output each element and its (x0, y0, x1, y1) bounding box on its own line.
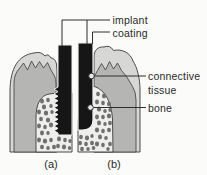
bone-dot (90, 134, 93, 138)
bone-dot (50, 110, 53, 114)
bone-dot (63, 138, 67, 142)
bone-dot (107, 102, 111, 107)
connective-tissue-label-line2: tissue (148, 84, 177, 96)
bone-dot (104, 136, 108, 140)
bone-dot (101, 101, 105, 105)
bone-dot (46, 98, 50, 102)
coating-label: coating (113, 27, 148, 39)
bone-dot (40, 99, 44, 104)
connective-tissue-marker-circle (89, 73, 95, 79)
bone-dot (108, 108, 111, 112)
bone-dot (79, 135, 83, 140)
connective-tissue-label-line1: connective (148, 70, 200, 82)
bone-dot (49, 104, 52, 108)
bone-dot (101, 143, 105, 147)
figure-container: implant coating connective tissue bone (… (0, 0, 207, 175)
bone-dot (95, 100, 99, 105)
panel-b-caption: (b) (107, 158, 120, 170)
bone-dot (92, 146, 96, 150)
bone-dot (40, 131, 44, 136)
bone-dot (62, 145, 66, 150)
bone-dot (95, 115, 99, 120)
bone-dot (80, 147, 84, 151)
bone-dot (96, 92, 100, 97)
bone-dot (37, 138, 41, 143)
implant-coating-figure: implant coating connective tissue bone (… (0, 0, 207, 175)
bone-dot (42, 105, 46, 110)
bone-dot (106, 147, 109, 151)
bone-dot (68, 139, 71, 143)
bone-label: bone (148, 102, 172, 114)
bone-dot (107, 114, 111, 119)
bone-dot (40, 145, 44, 150)
bone-dot (43, 139, 47, 144)
bone-dot (37, 124, 41, 129)
bone-dot (102, 94, 106, 99)
bone-dot (78, 141, 82, 146)
panel-b-diagram (78, 43, 140, 152)
bone-dot (98, 135, 102, 140)
bone-marker-circle (88, 105, 94, 111)
bone-dot (43, 125, 47, 129)
bone-dot (107, 128, 111, 133)
bone-dot (108, 142, 112, 146)
implant-b-with-coating (78, 43, 93, 130)
bone-dot (90, 141, 94, 146)
bone-dot (95, 128, 99, 133)
bone-dot (95, 142, 99, 147)
bone-dot (103, 122, 106, 126)
bone-dot (101, 129, 105, 133)
bone-dot (49, 123, 53, 128)
bone-dot (46, 118, 50, 123)
bone-dot (49, 138, 53, 142)
bone-dot (44, 111, 48, 116)
bone-dot (108, 121, 112, 125)
bone-dot (97, 121, 101, 126)
bone-dot (39, 117, 43, 122)
bone-dot (85, 136, 89, 141)
bone-dot (68, 146, 71, 150)
bone-dot (57, 137, 61, 142)
implant-label: implant (113, 14, 148, 26)
bone-dot (37, 110, 41, 115)
bone-dot (86, 147, 89, 151)
bone-dot (46, 131, 49, 135)
bone-dot (101, 115, 105, 119)
bone-dot (84, 142, 88, 146)
panel-a-diagram (10, 45, 72, 152)
bone-dot (46, 146, 50, 150)
bone-dot (103, 109, 107, 113)
bone-dot (52, 145, 56, 150)
bone-dot (56, 144, 60, 148)
panel-a-caption: (a) (44, 158, 57, 170)
